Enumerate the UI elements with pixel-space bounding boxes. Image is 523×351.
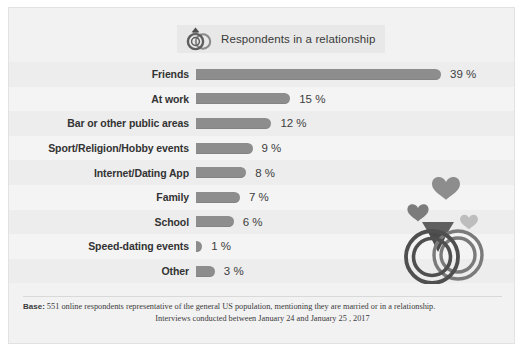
category-label: Family: [9, 191, 189, 203]
category-label: Other: [9, 265, 189, 277]
chart-row: Bar or other public areas12 %: [9, 111, 515, 136]
bar-group: 3 %: [196, 265, 244, 277]
bar: [196, 241, 202, 252]
bar: [196, 266, 215, 277]
category-label: Internet/Dating App: [9, 167, 189, 179]
chart-row: Sport/Religion/Hobby events9 %: [9, 136, 515, 161]
chart-row: School6 %: [9, 210, 515, 235]
bar: [196, 93, 290, 104]
chart-row: Internet/Dating App8 %: [9, 160, 515, 185]
bar: [196, 118, 271, 129]
footer-base-label: Base:: [23, 302, 45, 311]
bar: [196, 143, 253, 154]
category-label: Sport/Religion/Hobby events: [9, 142, 189, 154]
value-label: 1 %: [211, 240, 231, 252]
bar-group: 9 %: [196, 142, 281, 154]
bar: [196, 167, 246, 178]
chart-card: Respondents in a relationship Friends39 …: [8, 7, 515, 344]
chart-row: Family7 %: [9, 185, 515, 210]
bar-chart-plot: Friends39 %At work15 %Bar or other publi…: [9, 62, 515, 284]
bar-group: 1 %: [196, 240, 231, 252]
footer-line-2: Interviews conducted between January 24 …: [23, 313, 502, 325]
bar-group: 6 %: [196, 216, 263, 228]
bar-group: 8 %: [196, 167, 275, 179]
legend-label: Respondents in a relationship: [221, 33, 375, 45]
value-label: 9 %: [262, 142, 282, 154]
footer-base-text: 551 online respondents representative of…: [45, 302, 436, 311]
footer-line-1: Base: 551 online respondents representat…: [23, 301, 502, 313]
bar: [196, 69, 441, 80]
value-label: 3 %: [224, 265, 244, 277]
value-label: 7 %: [249, 191, 269, 203]
value-label: 39 %: [450, 68, 476, 80]
bar: [196, 192, 240, 203]
value-label: 6 %: [243, 216, 263, 228]
wedding-rings-icon: [183, 26, 213, 52]
value-label: 15 %: [299, 93, 325, 105]
chart-row: Speed-dating events1 %: [9, 234, 515, 259]
category-label: School: [9, 216, 189, 228]
category-label: At work: [9, 93, 189, 105]
legend: Respondents in a relationship: [177, 25, 385, 53]
footer-note: Base: 551 online respondents representat…: [23, 301, 502, 324]
value-label: 8 %: [255, 167, 275, 179]
bar-group: 15 %: [196, 93, 325, 105]
category-label: Bar or other public areas: [9, 117, 189, 129]
chart-row: Friends39 %: [9, 62, 515, 87]
category-label: Speed-dating events: [9, 240, 189, 252]
chart-row: At work15 %: [9, 87, 515, 112]
bar-group: 7 %: [196, 191, 269, 203]
bar-group: 39 %: [196, 68, 476, 80]
category-label: Friends: [9, 68, 189, 80]
footer-divider: [23, 296, 502, 297]
value-label: 12 %: [280, 117, 306, 129]
bar: [196, 216, 234, 227]
bar-group: 12 %: [196, 117, 307, 129]
chart-row: Other3 %: [9, 259, 515, 284]
